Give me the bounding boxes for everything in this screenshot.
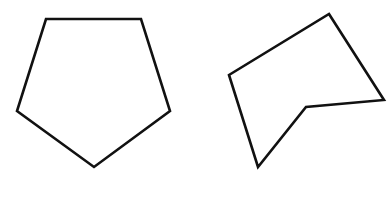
shapes-diagram (0, 0, 390, 197)
background (0, 0, 390, 197)
